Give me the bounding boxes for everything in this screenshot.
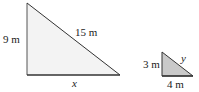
small-triangle: 3 m y 4 m xyxy=(143,52,193,90)
small-vertical-leg-label: 3 m xyxy=(143,58,160,70)
small-base-label: 4 m xyxy=(167,78,184,90)
similar-triangles-figure: 9 m 15 m x 3 m y 4 m xyxy=(0,0,199,92)
small-hypotenuse-label: y xyxy=(180,52,186,64)
small-triangle-fill xyxy=(162,52,193,76)
large-hypotenuse-label: 15 m xyxy=(75,26,98,38)
large-base-label: x xyxy=(71,77,77,89)
large-vertical-leg-label: 9 m xyxy=(3,33,20,45)
large-triangle: 9 m 15 m x xyxy=(3,3,120,89)
